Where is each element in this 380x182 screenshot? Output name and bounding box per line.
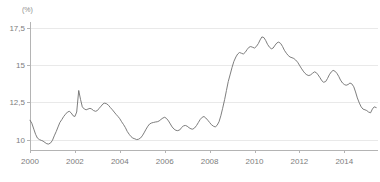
- y-tick-label: 10: [0, 135, 25, 144]
- x-tick-label: 2012: [291, 157, 309, 166]
- axis-ticks: [27, 29, 345, 154]
- y-tick-label: 12,5: [0, 98, 25, 107]
- x-tick-label: 2004: [111, 157, 129, 166]
- x-tick-label: 2000: [21, 157, 39, 166]
- x-tick-label: 2014: [335, 157, 353, 166]
- chart-container: (%) 1012,51517,5 20002002200420062008201…: [0, 0, 380, 182]
- x-tick-label: 2002: [66, 157, 84, 166]
- gridlines: [30, 29, 378, 141]
- y-tick-label: 17,5: [0, 23, 25, 32]
- data-series-line: [30, 37, 376, 144]
- x-tick-label: 2008: [201, 157, 219, 166]
- y-tick-label: 15: [0, 61, 25, 70]
- line-chart-plot: [0, 0, 380, 182]
- x-tick-label: 2010: [246, 157, 264, 166]
- x-tick-label: 2006: [156, 157, 174, 166]
